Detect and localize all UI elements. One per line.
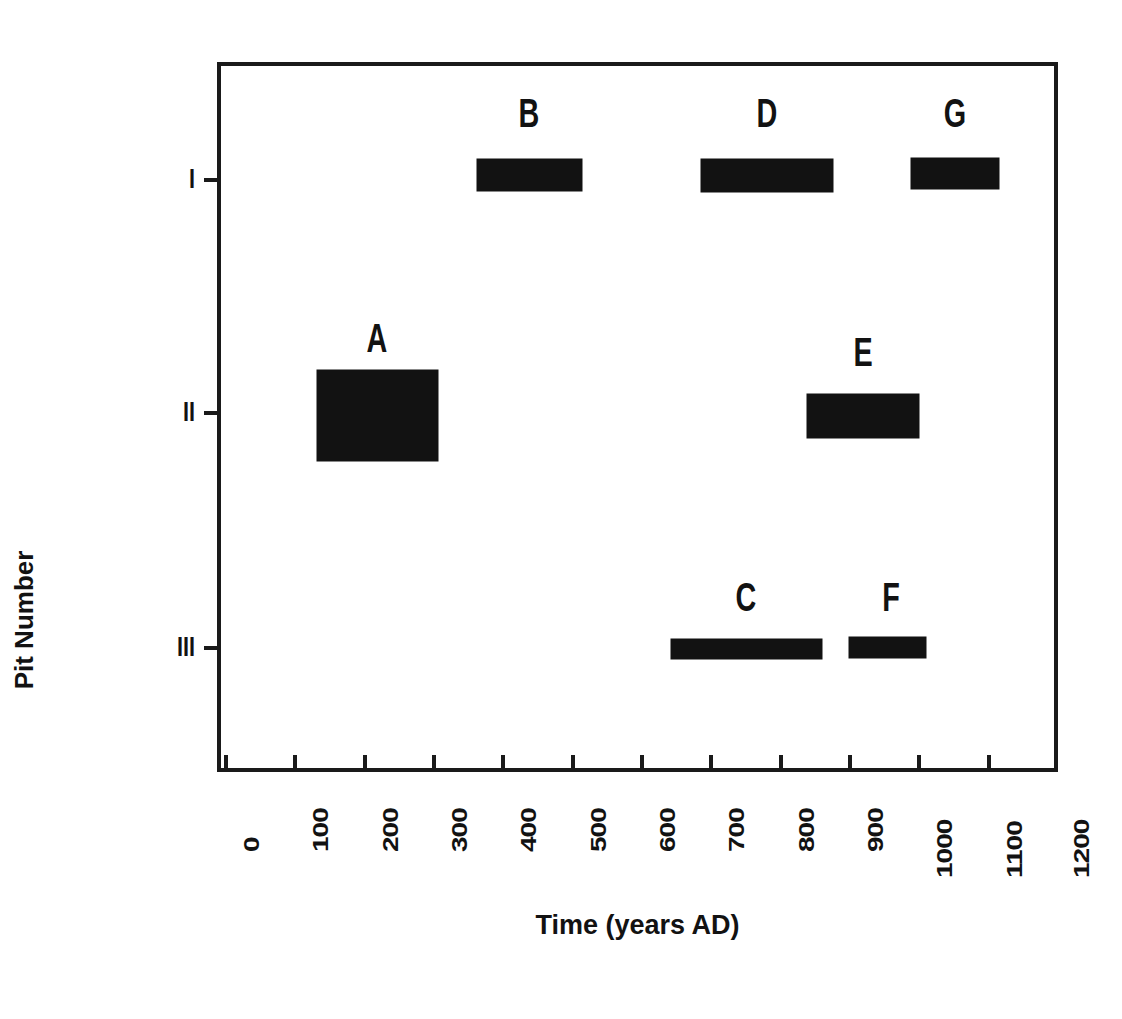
x-tick-label-500: 500 [587, 808, 610, 852]
x-tick-600 [640, 755, 644, 772]
bar-label-F: F [869, 577, 912, 617]
y-axis-title: Pit Number [9, 420, 40, 820]
x-tick-1200 [1054, 755, 1058, 772]
x-tick-800 [779, 755, 783, 772]
bar-G [911, 158, 999, 189]
bar-label-C: C [724, 577, 767, 617]
bar-C [671, 639, 822, 659]
bar-label-A: A [355, 318, 398, 358]
x-tick-label-700: 700 [725, 808, 748, 852]
bar-F [849, 637, 926, 658]
x-tick-label-1000: 1000 [933, 820, 956, 878]
x-tick-label-400: 400 [517, 808, 540, 852]
x-tick-900 [848, 755, 852, 772]
x-tick-label-100: 100 [309, 808, 332, 852]
x-tick-label-300: 300 [448, 808, 471, 852]
x-tick-400 [501, 755, 505, 772]
bar-A [317, 370, 438, 461]
y-tick-label-III: III [159, 634, 195, 661]
y-tick-label-II: II [159, 399, 195, 426]
x-tick-label-1100: 1100 [1003, 821, 1026, 878]
x-tick-100 [293, 755, 297, 772]
x-tick-label-0: 0 [240, 837, 263, 852]
bar-label-B: B [507, 93, 550, 133]
chart-figure: Pit Number A B C D E F G I II III [0, 0, 1122, 1019]
x-tick-label-200: 200 [379, 808, 402, 852]
x-tick-1000 [917, 755, 921, 772]
bar-D [701, 159, 833, 192]
bar-label-G: G [933, 93, 976, 133]
x-tick-500 [571, 755, 575, 772]
y-tick-III [204, 646, 221, 650]
x-tick-label-900: 900 [864, 808, 887, 852]
x-tick-0 [224, 755, 228, 772]
x-tick-700 [709, 755, 713, 772]
y-tick-I [204, 178, 221, 182]
x-tick-1100 [987, 755, 991, 772]
plot-area: A B C D E F G [217, 62, 1058, 772]
bar-B [477, 159, 582, 191]
x-axis-title: Time (years AD) [217, 910, 1058, 941]
bar-E [807, 394, 919, 438]
x-tick-300 [432, 755, 436, 772]
x-tick-label-800: 800 [795, 808, 818, 852]
x-tick-label-600: 600 [656, 808, 679, 852]
y-tick-label-I: I [159, 166, 195, 193]
y-tick-II [204, 411, 221, 415]
bar-label-E: E [841, 332, 884, 372]
x-tick-label-1200: 1200 [1070, 820, 1093, 878]
bar-label-D: D [745, 93, 788, 133]
x-tick-200 [363, 755, 367, 772]
